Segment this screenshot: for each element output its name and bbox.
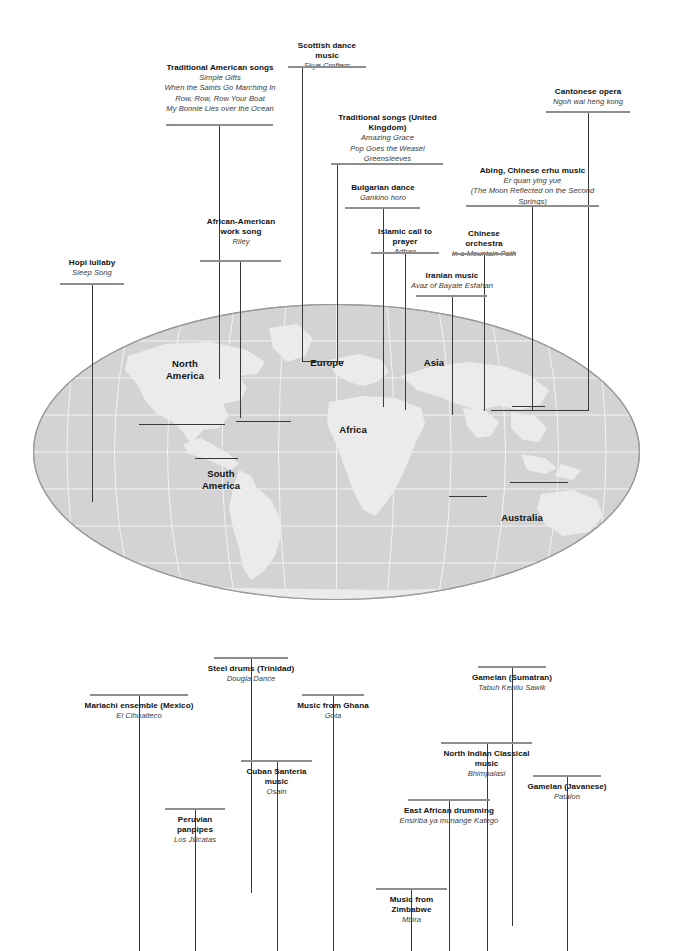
callout-piece-title: Mbira xyxy=(369,915,454,925)
lead-cantonese-seg-1 xyxy=(532,410,589,411)
callout-text: East African drummingEnsiriba ya munange… xyxy=(395,806,503,826)
callout-title: Mariachi ensemble (Mexico) xyxy=(83,701,195,711)
callout-traditional-songs-uk[interactable]: Traditional songs (United Kingdom)Amazin… xyxy=(324,113,451,164)
callout-text: Cuban Santeria musicOsain xyxy=(234,767,319,798)
callout-piece-title: Ngoh wai heng kong xyxy=(544,97,632,107)
callout-title: Cuban Santeria music xyxy=(234,767,319,787)
callout-iranian-music[interactable]: Iranian musicAvaz of Bayate Esfahan xyxy=(410,271,494,291)
lead-scottish-seg-0 xyxy=(302,66,303,362)
callout-piece-title: Er quan ying yue xyxy=(460,176,605,186)
callout-title: Iranian music xyxy=(410,271,494,281)
callout-text: Chinese orchestraIn a Mountain Path xyxy=(449,229,519,260)
callout-piece-title: Simple Gifts xyxy=(158,73,282,83)
callout-piece-title: Patalon xyxy=(526,792,608,802)
callout-rule-gamelan-sumatran xyxy=(478,666,546,668)
callout-title: Steel drums (Trinidad) xyxy=(206,664,296,674)
callout-piece-title: Dougla Dance xyxy=(206,674,296,684)
callout-title: Islamic call to prayer xyxy=(368,227,442,247)
callout-text: Music from ZimbabweMbira xyxy=(369,895,454,926)
callout-hopi-lullaby[interactable]: Hopi lullabySleep Song xyxy=(56,258,128,278)
callout-bulgarian-dance[interactable]: Bulgarian danceGankino horo xyxy=(343,183,423,203)
callout-music-from-zimbabwe[interactable]: Music from ZimbabweMbira xyxy=(369,895,454,926)
callout-rule-music-from-ghana xyxy=(302,694,364,696)
callout-peruvian-panpipes[interactable]: Peruvian panpipesLos Jilicatas xyxy=(159,815,231,846)
callout-title: African-American work song xyxy=(197,217,285,237)
callout-title: Gamelan (Sumatran) xyxy=(470,673,554,683)
lead-cuban-seg-1 xyxy=(236,421,278,422)
lead-peruvian-seg-1 xyxy=(195,458,238,459)
callout-rule-traditional-american-songs xyxy=(166,124,273,126)
continent-label-south-america: South America xyxy=(191,468,251,491)
callout-title: Hopi lullaby xyxy=(56,258,128,268)
callout-piece-title: Ensiriba ya munange Katego xyxy=(395,816,503,826)
callout-piece-title: Row, Row, Row Your Boat xyxy=(158,94,282,104)
callout-abing-chinese-erhu-music[interactable]: Abing, Chinese erhu musicEr quan ying yu… xyxy=(460,166,605,207)
callout-piece-title: Sleep Song xyxy=(56,268,128,278)
callout-rule-hopi-lullaby xyxy=(60,283,124,285)
callout-rule-chinese-orchestra xyxy=(452,253,516,255)
callout-gamelan-sumatran[interactable]: Gamelan (Sumatran)Tabuh Kenilu Sawik xyxy=(470,673,554,693)
callout-rule-gamelan-javanese xyxy=(533,775,601,777)
callout-piece-title: Avaz of Bayate Esfahan xyxy=(410,281,494,291)
continent-label-europe: Europe xyxy=(297,357,357,369)
lead-gamelan-sum-seg-0 xyxy=(512,666,513,926)
callout-north-indian-classical-music[interactable]: North Indian Classical musicBhimpalasi xyxy=(434,749,539,780)
callout-text: African-American work songRiley xyxy=(197,217,285,248)
callout-mariachi-ensemble-mexico[interactable]: Mariachi ensemble (Mexico)El Cihualteco xyxy=(83,701,195,721)
callout-rule-abing-chinese-erhu-music xyxy=(466,205,599,207)
callout-piece-title: Los Jilicatas xyxy=(159,835,231,845)
callout-rule-mariachi-ensemble-mexico xyxy=(90,694,188,696)
lead-uk-seg-0 xyxy=(337,163,338,363)
callout-piece-title: My Bonnie Lies over the Ocean xyxy=(158,104,282,114)
callout-steel-drums-trinidad[interactable]: Steel drums (Trinidad)Dougla Dance xyxy=(206,664,296,684)
lead-abing-seg-1 xyxy=(491,410,533,411)
callout-text: Cantonese operaNgoh wai heng kong xyxy=(544,87,632,107)
callout-title: Chinese orchestra xyxy=(449,229,519,249)
callout-rule-steel-drums-trinidad xyxy=(214,657,288,659)
callout-cantonese-opera[interactable]: Cantonese operaNgoh wai heng kong xyxy=(544,87,632,107)
callout-text: Traditional songs (United Kingdom)Amazin… xyxy=(324,113,451,164)
lead-mariachi-seg-0 xyxy=(139,694,140,951)
callout-music-from-ghana[interactable]: Music from GhanaGota xyxy=(297,701,369,721)
callout-piece-title: Bhimpalasi xyxy=(434,769,539,779)
callout-rule-music-from-zimbabwe xyxy=(376,888,447,890)
callout-text: Peruvian panpipesLos Jilicatas xyxy=(159,815,231,846)
callout-chinese-orchestra[interactable]: Chinese orchestraIn a Mountain Path xyxy=(449,229,519,260)
callout-rule-iranian-music xyxy=(416,295,487,297)
callout-text: Mariachi ensemble (Mexico)El Cihualteco xyxy=(83,701,195,721)
callout-east-african-drumming[interactable]: East African drummingEnsiriba ya munange… xyxy=(395,806,503,826)
callout-gamelan-javanese[interactable]: Gamelan (Javanese)Patalon xyxy=(526,782,608,802)
callout-piece-title: Gota xyxy=(297,711,369,721)
callout-piece-title: Osain xyxy=(234,787,319,797)
callout-traditional-american-songs[interactable]: Traditional American songsSimple GiftsWh… xyxy=(158,63,282,114)
continent-label-asia: Asia xyxy=(404,357,464,369)
callout-text: Steel drums (Trinidad)Dougla Dance xyxy=(206,664,296,684)
lead-mariachi-seg-1 xyxy=(139,424,225,425)
callout-text: Gamelan (Javanese)Patalon xyxy=(526,782,608,802)
callout-title: Gamelan (Javanese) xyxy=(526,782,608,792)
continent-label-australia: Australia xyxy=(492,512,552,524)
lead-iranian-seg-0 xyxy=(452,295,453,415)
callout-african-american-work-song[interactable]: African-American work songRiley xyxy=(197,217,285,248)
callout-title: Scottish dance music xyxy=(285,41,369,61)
callout-title: Traditional songs (United Kingdom) xyxy=(324,113,451,133)
lead-cantonese-seg-0 xyxy=(588,111,589,411)
callout-piece-title: Gankino horo xyxy=(343,193,423,203)
callout-text: Bulgarian danceGankino horo xyxy=(343,183,423,203)
callout-piece-title: Riley xyxy=(197,237,285,247)
callout-piece-title: (The Moon Reflected on the Second Spring… xyxy=(460,186,605,206)
callout-rule-cuban-santeria-music xyxy=(241,760,312,762)
callout-text: Abing, Chinese erhu musicEr quan ying yu… xyxy=(460,166,605,207)
callout-text: North Indian Classical musicBhimpalasi xyxy=(434,749,539,780)
callout-rule-peruvian-panpipes xyxy=(165,808,225,810)
lead-trad-amer-seg-0 xyxy=(219,124,220,379)
lead-gamelan-sum-seg-1 xyxy=(512,406,545,407)
lead-east-african-seg-1 xyxy=(449,496,487,497)
callout-cuban-santeria-music[interactable]: Cuban Santeria musicOsain xyxy=(234,767,319,798)
callout-rule-islamic-call-to-prayer xyxy=(371,252,439,254)
callout-piece-title: El Cihualteco xyxy=(83,711,195,721)
lead-ghana-seg-0 xyxy=(333,694,334,951)
callout-title: Music from Zimbabwe xyxy=(369,895,454,915)
callout-text: Iranian musicAvaz of Bayate Esfahan xyxy=(410,271,494,291)
callout-title: East African drumming xyxy=(395,806,503,816)
